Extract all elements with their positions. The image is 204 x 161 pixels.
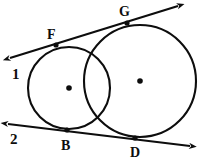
label-point-g: G xyxy=(119,4,130,19)
label-point-d: D xyxy=(130,145,140,160)
point-d-dot xyxy=(132,135,137,140)
point-g-dot xyxy=(124,20,129,25)
geometry-diagram-canvas: 1 2 F G B D xyxy=(0,0,204,161)
tangent-line-2 xyxy=(8,124,190,146)
label-point-f: F xyxy=(47,27,56,42)
label-point-b: B xyxy=(61,138,70,153)
point-f-dot xyxy=(53,42,58,47)
geometry-figure: 1 2 F G B D xyxy=(0,0,204,161)
point-b-dot xyxy=(64,127,69,132)
label-line-2: 2 xyxy=(10,131,18,147)
small-circle-center-dot xyxy=(66,85,72,91)
large-circle-center-dot xyxy=(137,78,143,84)
label-line-1: 1 xyxy=(12,66,20,82)
